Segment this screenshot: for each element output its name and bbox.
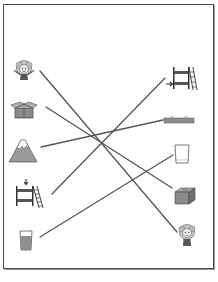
bunk-bed-side-icon[interactable]	[166, 67, 197, 90]
full-glass-icon[interactable]	[20, 231, 32, 250]
mountain-icon[interactable]	[9, 140, 37, 162]
flat-land-icon[interactable]	[164, 116, 194, 123]
open-box-icon[interactable]	[11, 102, 37, 118]
connection-line-girl-cheerful	[40, 71, 177, 232]
bunk-bed-down-icon[interactable]	[16, 179, 43, 208]
connection-line-bunk-bed-down	[52, 78, 165, 194]
connection-line-box-open	[46, 107, 172, 188]
connection-line-glass-full	[40, 155, 173, 237]
empty-glass-icon[interactable]	[175, 145, 189, 163]
girl-cheerful-icon[interactable]	[14, 61, 34, 81]
girl-sad-icon[interactable]	[179, 225, 195, 247]
connection-lines	[40, 71, 177, 237]
closed-box-icon[interactable]	[175, 188, 195, 204]
matching-canvas	[0, 0, 218, 282]
